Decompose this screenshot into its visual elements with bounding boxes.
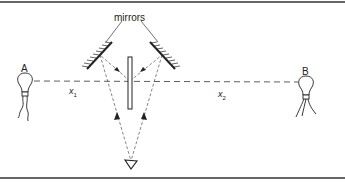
distance-x1-sub: 1 — [74, 92, 77, 98]
distance-x2-sub: 2 — [223, 95, 226, 101]
axis-dashed-line — [34, 81, 298, 82]
eye-icon — [125, 160, 137, 169]
distance-x2-label: x2 — [218, 90, 226, 101]
mirrors-label: mirrors — [114, 13, 145, 23]
source-b-label: B — [302, 67, 309, 77]
lightbulb-a-icon — [18, 73, 33, 121]
source-a-label: A — [21, 64, 28, 74]
lightbulb-b-icon — [296, 76, 316, 117]
photometer-plate — [128, 57, 132, 109]
distance-x1-label: x1 — [69, 87, 77, 98]
right-mirror-icon — [150, 42, 180, 69]
left-mirror-icon — [82, 42, 112, 69]
diagram-drawing — [0, 0, 345, 191]
photometer-diagram: mirrors A B x1 x2 — [0, 0, 345, 191]
mirrors-leader-lines — [106, 21, 158, 42]
